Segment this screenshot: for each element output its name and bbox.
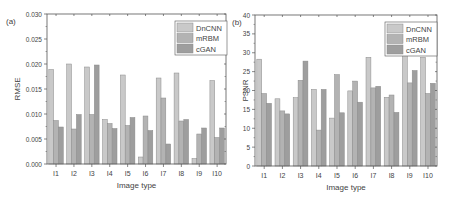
y-axis-label: RMSE	[13, 77, 22, 100]
y-tick-label: 0.020	[26, 61, 43, 68]
bar-dncnn-i10	[421, 57, 426, 166]
psnr-chart: 0510152025303540I1I2I3I4I5I6I7I8I9I10Ima…	[232, 12, 437, 193]
bar-cgan-i4	[321, 89, 326, 166]
bar-cgan-i5	[339, 113, 344, 166]
bar-dncnn-i6	[348, 91, 353, 166]
bar-mrbm-i8	[179, 121, 184, 164]
legend-swatch-cgan	[387, 45, 403, 54]
legend-swatch-cgan	[177, 44, 193, 53]
bar-cgan-i3	[94, 65, 99, 164]
legend: DnCNNmRBMcGAN	[385, 22, 437, 56]
bar-mrbm-i7	[371, 88, 376, 166]
y-tick-label: 0.015	[26, 86, 43, 93]
panel-label: (a)	[6, 17, 16, 26]
bar-cgan-i9	[202, 128, 207, 164]
x-tick-label: I1	[53, 170, 59, 177]
bar-dncnn-i1	[49, 70, 54, 165]
x-tick-label: I7	[161, 170, 167, 177]
x-tick-label: I6	[352, 172, 358, 179]
bar-mrbm-i7	[161, 98, 166, 164]
rmse-chart: 0.0000.0050.0100.0150.0200.0250.030I1I2I…	[6, 11, 227, 191]
x-tick-label: I9	[407, 172, 413, 179]
legend-label-cgan: cGAN	[406, 46, 426, 55]
x-tick-label: I4	[107, 170, 113, 177]
x-tick-label: I9	[196, 170, 202, 177]
bar-mrbm-i5	[125, 126, 130, 165]
bar-cgan-i10	[220, 128, 225, 164]
bar-mrbm-i10	[426, 94, 431, 167]
bar-dncnn-i4	[311, 89, 316, 166]
bar-mrbm-i8	[389, 95, 394, 166]
y-tick-label: 35	[243, 30, 251, 37]
bar-dncnn-i3	[85, 67, 90, 164]
legend-label-mrbm: mRBM	[406, 35, 429, 44]
bar-dncnn-i7	[366, 57, 371, 166]
bar-mrbm-i5	[335, 75, 340, 166]
legend-label-dncnn: DnCNN	[196, 24, 222, 33]
y-tick-label: 0.010	[26, 111, 43, 118]
bar-mrbm-i6	[143, 116, 148, 164]
x-tick-label: I5	[334, 172, 340, 179]
x-tick-label: I8	[178, 170, 184, 177]
y-tick-label: 0.005	[26, 136, 43, 143]
y-tick-label: 15	[243, 106, 251, 113]
y-tick-label: 25	[243, 68, 251, 75]
bar-cgan-i8	[184, 120, 189, 165]
bar-dncnn-i8	[384, 97, 389, 166]
y-tick-label: 5	[246, 144, 250, 151]
bars	[49, 64, 225, 164]
panel-label: (b)	[232, 18, 242, 27]
bar-dncnn-i2	[275, 99, 280, 166]
bar-mrbm-i10	[215, 138, 220, 165]
y-tick-label: 0.000	[26, 161, 43, 168]
bar-mrbm-i9	[197, 134, 202, 164]
bar-cgan-i1	[267, 103, 272, 166]
bar-cgan-i4	[112, 129, 117, 165]
x-tick-label: I4	[316, 172, 322, 179]
legend-swatch-dncnn	[387, 24, 403, 33]
bar-mrbm-i4	[316, 130, 321, 166]
bar-mrbm-i4	[107, 124, 112, 165]
x-tick-label: I2	[279, 172, 285, 179]
bar-mrbm-i9	[407, 83, 412, 166]
legend-label-cgan: cGAN	[196, 45, 216, 54]
x-axis-label: Image type	[326, 183, 366, 192]
legend-swatch-mrbm	[387, 35, 403, 44]
bar-dncnn-i7	[156, 78, 161, 164]
bar-dncnn-i2	[67, 64, 72, 164]
bar-cgan-i10	[430, 83, 435, 166]
bar-mrbm-i3	[89, 115, 94, 165]
bars	[257, 52, 436, 166]
bar-cgan-i9	[412, 71, 417, 167]
y-tick-label: 0	[246, 163, 250, 170]
bar-cgan-i7	[166, 144, 171, 164]
bar-cgan-i1	[59, 127, 64, 164]
y-tick-label: 40	[243, 12, 251, 19]
bar-cgan-i2	[285, 114, 290, 166]
y-axis-label: PSNR	[241, 79, 250, 101]
x-axis-label: Image type	[117, 181, 157, 190]
x-tick-label: I2	[71, 170, 77, 177]
x-tick-label: I3	[89, 170, 95, 177]
bar-dncnn-i5	[330, 118, 335, 166]
y-tick-label: 0.025	[26, 36, 43, 43]
bar-cgan-i3	[303, 61, 308, 166]
bar-cgan-i8	[394, 112, 399, 166]
bar-dncnn-i5	[120, 75, 125, 164]
bar-dncnn-i3	[293, 98, 298, 166]
y-tick-label: 30	[243, 49, 251, 56]
x-tick-label: I7	[370, 172, 376, 179]
chart-canvas: 0.0000.0050.0100.0150.0200.0250.030I1I2I…	[0, 0, 450, 198]
x-tick-label: I8	[389, 172, 395, 179]
x-tick-label: I10	[212, 170, 222, 177]
y-tick-label: 0.030	[26, 11, 43, 18]
legend-swatch-mrbm	[177, 34, 193, 43]
bar-mrbm-i1	[54, 121, 59, 165]
bar-dncnn-i10	[210, 81, 215, 165]
bar-mrbm-i1	[262, 94, 267, 167]
bar-cgan-i2	[76, 115, 81, 165]
x-tick-label: I5	[125, 170, 131, 177]
x-tick-label: I6	[143, 170, 149, 177]
x-tick-label: I3	[298, 172, 304, 179]
legend-label-dncnn: DnCNN	[406, 25, 432, 34]
